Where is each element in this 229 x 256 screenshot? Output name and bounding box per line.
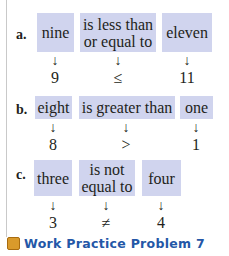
down-arrow-icon: ↓ — [186, 120, 206, 136]
row-a-word-2-line-2: or equal to — [84, 33, 152, 50]
row-c-symbol-2: ≠ — [91, 214, 121, 232]
row-a-symbol-2: ≤ — [103, 69, 133, 87]
down-arrow-icon: ↓ — [108, 53, 128, 69]
down-arrow-icon: ↓ — [116, 120, 136, 136]
row-b-word-3: one — [180, 96, 213, 119]
row-b-label: b. — [16, 102, 27, 118]
row-b-word-1: eight — [35, 96, 72, 119]
row-a-label: a. — [16, 27, 27, 43]
row-a-word-3: eleven — [162, 13, 212, 52]
row-a-word-1: nine — [37, 13, 74, 52]
row-a-symbol-1: 9 — [40, 69, 70, 87]
down-arrow-icon: ↓ — [151, 198, 171, 214]
down-arrow-icon: ↓ — [177, 53, 197, 69]
row-a-word-2: is less than or equal to — [80, 13, 156, 52]
row-b-word-2: is greater than — [79, 96, 175, 119]
down-arrow-icon: ↓ — [43, 198, 63, 214]
row-b-symbol-3: 1 — [181, 136, 211, 154]
work-practice-text: Work Practice Problem 7 — [24, 236, 205, 251]
down-arrow-icon: ↓ — [96, 198, 116, 214]
down-arrow-icon: ↓ — [43, 120, 63, 136]
row-c-symbol-1: 3 — [38, 214, 68, 232]
row-a-word-2-line-1: is less than — [83, 16, 153, 33]
row-c-symbol-3: 4 — [146, 214, 176, 232]
row-c-word-1: three — [34, 160, 72, 196]
work-practice-heading: Work Practice Problem 7 — [7, 236, 205, 251]
down-arrow-icon: ↓ — [45, 53, 65, 69]
row-c-word-2-line-1: is not — [89, 161, 124, 178]
row-c-label: c. — [16, 167, 26, 183]
margin-rule — [6, 0, 7, 237]
row-c-word-3: four — [142, 160, 181, 196]
row-b-symbol-1: 8 — [38, 136, 68, 154]
row-a-symbol-3: 11 — [172, 69, 202, 87]
square-bullet-icon — [7, 237, 20, 250]
row-c-word-2: is not equal to — [79, 160, 135, 196]
row-b-symbol-2: > — [111, 136, 141, 154]
row-c-word-2-line-2: equal to — [81, 178, 132, 195]
